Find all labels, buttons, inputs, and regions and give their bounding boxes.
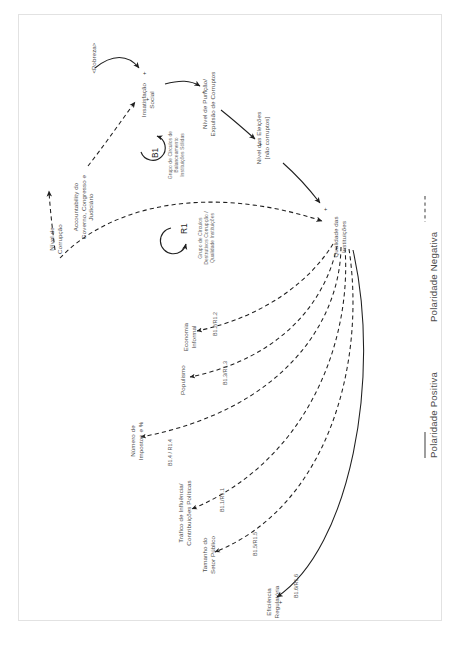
link-label-b14r14: B1.4 / R1.4 (167, 439, 173, 466)
node-numero-impostos: Número de Impostos e % (129, 418, 144, 464)
link-label-b11r11: B1.1/R1.1 (219, 488, 225, 512)
node-nivel-eleicoes: Nível das Eleições [não corruptos] (255, 100, 270, 176)
link-insatisfacao-punicao (165, 81, 200, 86)
polarity-sign-insatisfacao-accountability: + (144, 97, 150, 101)
link-accountability-insatisfacao (88, 102, 135, 166)
diagram-canvas: Nível de Corrupção Accountability do Gov… (0, 0, 460, 649)
link-punicao-eleicoes (221, 110, 255, 139)
link-label-b13r13: B1.3/R1.3 (222, 361, 228, 385)
link-qualidade-eficiencia-regulatoria (277, 250, 364, 597)
link-layer (0, 0, 460, 649)
node-accountability: Accountability do Governo, Congresso e J… (72, 167, 95, 247)
node-economia-informal: Economia Informal (182, 316, 197, 358)
loop-label-b1: B1 (151, 148, 160, 158)
link-corrupcao-qualidade (60, 202, 322, 258)
loop-description-r1: Grupo de Círculos Destrutivos Corrupção … (197, 204, 215, 272)
node-pobreza: <Pobreza> (90, 38, 98, 78)
node-nivel-corrupcao: Nível de Corrupção (48, 216, 63, 262)
link-qualidade-trafico-influencia (192, 248, 346, 509)
node-nivel-punicao: Nível de Punição/ Expulsão de Corruptos (201, 58, 216, 150)
polarity-sign-punicao: + (200, 90, 206, 94)
node-populismo: Populismo (179, 360, 187, 400)
link-label-b16r16: B1.6/R1.6 (293, 574, 299, 598)
polarity-sign-qualidade-eleicoes: + (322, 207, 328, 211)
node-tamanho-setor-publico: Tamanho do Setor Público (201, 530, 216, 580)
legend-label-positive: Polaridade Positiva (429, 372, 439, 458)
loop-description-b1: Grupo de Círculos de Balanceamento Insti… (167, 124, 185, 186)
polarity-sign-eleicoes: + (257, 142, 263, 146)
link-eleicoes-qualidade (283, 163, 320, 203)
legend-label-negative: Polaridade Negativa (429, 232, 439, 322)
polarity-sign-insatisfacao-pobreza: + (141, 71, 147, 75)
node-qualidade-instituicoes: Qualidade das Instituições (332, 210, 347, 264)
polarity-sign-eficiencia: + (277, 600, 283, 604)
link-label-b15r15: B1.5/R1.5 (252, 532, 258, 556)
loop-label-r1: R1 (180, 223, 189, 234)
link-pobreza-insatisfacao (95, 58, 139, 69)
node-trafico-influencia: Tráfico de Influência/ Contribuições Pol… (177, 467, 192, 559)
link-label-b12r12: B1.2/R1.2 (212, 312, 218, 336)
link-qualidade-numero-impostos (141, 247, 341, 437)
